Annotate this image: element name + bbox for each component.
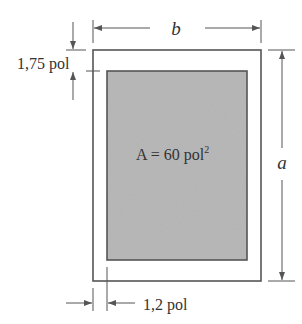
label-area-main: A = 60 pol bbox=[136, 146, 205, 164]
label-side-margin: 1,2 pol bbox=[143, 296, 188, 314]
label-b: b bbox=[171, 18, 181, 39]
label-a: a bbox=[277, 152, 287, 173]
diagram-canvas: b a 1,75 pol 1,2 pol A = 60 pol2 bbox=[0, 0, 302, 324]
label-area-exponent: 2 bbox=[204, 144, 209, 155]
label-area: A = 60 pol2 bbox=[136, 144, 209, 164]
inner-rectangle bbox=[107, 71, 247, 260]
label-top-margin: 1,75 pol bbox=[17, 55, 70, 73]
